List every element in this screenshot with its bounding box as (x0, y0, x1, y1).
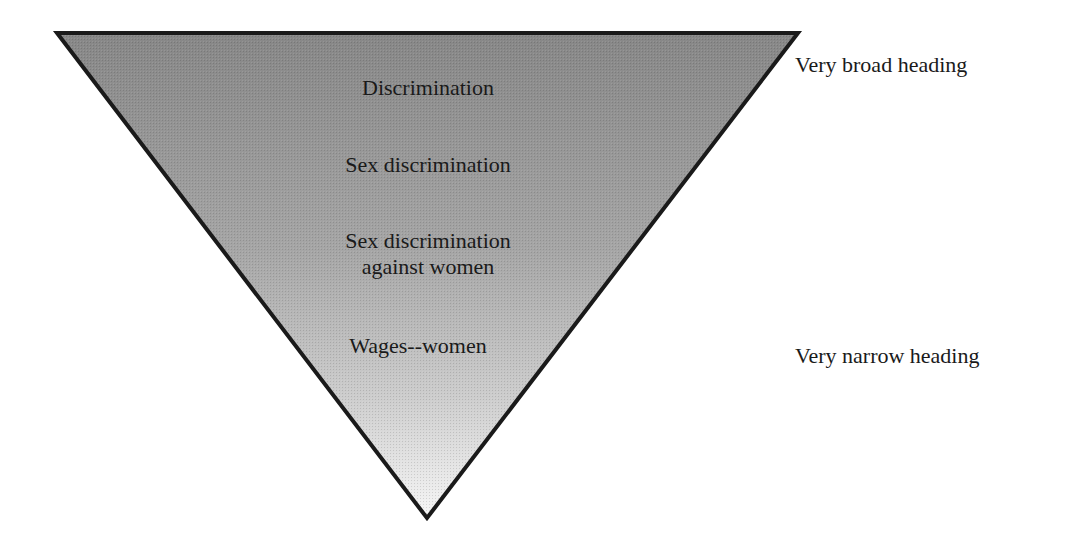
level-label-sex-discrimination: Sex discrimination (313, 152, 543, 178)
annotation-very-broad-heading: Very broad heading (795, 52, 967, 78)
level-label-line2: against women (313, 254, 543, 280)
level-label-discrimination: Discrimination (343, 75, 513, 101)
level-label-wages-women: Wages--women (323, 333, 513, 359)
annotation-very-narrow-heading: Very narrow heading (795, 343, 980, 369)
diagram-canvas: Discrimination Sex discrimination Sex di… (0, 0, 1084, 548)
level-label-line1: Sex discrimination (313, 228, 543, 254)
level-label-sex-discrimination-against-women: Sex discrimination against women (313, 228, 543, 280)
